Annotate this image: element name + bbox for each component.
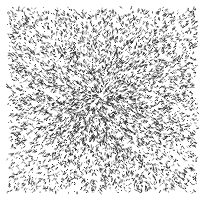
radial-stipple-plot (0, 0, 206, 200)
figure-root: Abstract monochrome stipple field of sho… (0, 0, 206, 200)
